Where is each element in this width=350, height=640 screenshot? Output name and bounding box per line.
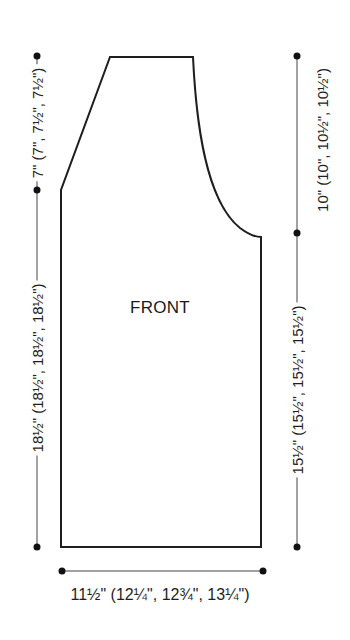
left-lower-dimension-text: 18½" (18½", 18½", 18½") — [29, 281, 46, 456]
right-dim-dot-top — [294, 53, 301, 60]
left-dim-dot-mid — [34, 187, 41, 194]
bottom-width-label: 11½" (12¼", 12¾", 13¼") — [71, 586, 250, 604]
right-dim-dot-bottom — [294, 544, 301, 551]
left-upper-dimension-label: 7" (7", 7½", 7½") — [29, 65, 46, 182]
left-lower-dimension-label: 18½" (18½", 18½", 18½") — [29, 281, 46, 456]
left-upper-dimension-text: 7" (7", 7½", 7½") — [29, 65, 46, 182]
bottom-dim-dot-right — [260, 568, 267, 575]
right-upper-dimension-text: 10" (10", 10½", 10½") — [314, 68, 331, 212]
right-lower-dimension-label: 15½" (15½", 15½", 15½") — [289, 303, 306, 478]
bottom-dim-dot-left — [59, 568, 66, 575]
left-dim-dot-bottom — [34, 544, 41, 551]
right-dim-dot-mid — [294, 230, 301, 237]
left-dim-dot-top — [34, 53, 41, 60]
right-upper-dimension-label: 10" (10", 10½", 10½") — [314, 68, 331, 212]
piece-label: FRONT — [130, 298, 190, 318]
right-lower-dimension-text: 15½" (15½", 15½", 15½") — [289, 303, 306, 478]
